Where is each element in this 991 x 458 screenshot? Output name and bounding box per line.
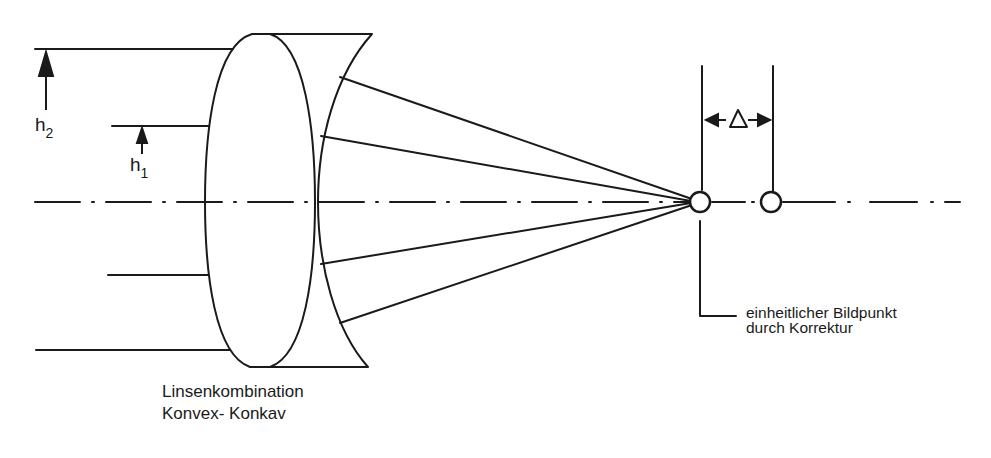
h1-arrow-icon <box>137 128 147 154</box>
lens-caption-line1: Linsenkombination <box>162 381 304 403</box>
incoming-rays <box>35 49 233 350</box>
delta-arrow-right-icon <box>748 114 770 126</box>
image-point-caption-line1: einheitlicher Bildpunkt <box>746 305 897 320</box>
image-point-caption-line2: durch Korrektur <box>746 320 897 335</box>
h2-label-main: h <box>35 114 46 135</box>
delta-arrow-left-icon <box>706 114 726 126</box>
h2-label-sub: 2 <box>46 125 54 141</box>
converging-rays <box>321 77 692 323</box>
h1-label: h1 <box>130 154 148 179</box>
lens-diagram <box>0 0 991 458</box>
delta-symbol-icon <box>730 110 747 127</box>
h1-label-main: h <box>130 154 141 175</box>
lens-caption: Linsenkombination Konvex- Konkav <box>162 381 304 425</box>
uncorrected-image-point <box>761 192 781 212</box>
image-point-caption: einheitlicher Bildpunkt durch Korrektur <box>746 305 897 335</box>
image-point-leader-line <box>700 221 736 316</box>
h2-arrow-icon <box>39 52 53 110</box>
convex-lens <box>205 34 315 367</box>
corrected-image-point <box>690 192 710 212</box>
lens-caption-line2: Konvex- Konkav <box>162 403 304 425</box>
h2-label: h2 <box>35 114 53 139</box>
h1-label-sub: 1 <box>141 165 149 181</box>
